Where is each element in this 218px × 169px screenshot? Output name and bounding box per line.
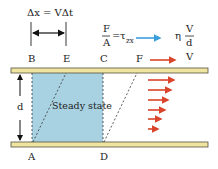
- point-c-label: C: [100, 54, 108, 64]
- point-b-label: B: [28, 54, 35, 64]
- area-label: A: [103, 38, 110, 48]
- gap-denominator: d: [186, 38, 192, 48]
- point-a-label: A: [28, 152, 35, 162]
- steady-state-label: Steady state: [52, 101, 112, 111]
- point-d-label: D: [100, 152, 108, 162]
- gap-d-label: d: [17, 102, 23, 112]
- tau-subscript: zx: [126, 36, 134, 46]
- tau-symbol: τ: [120, 31, 126, 41]
- delta-x-formula: Δx = VΔt: [27, 8, 73, 18]
- point-f-label: F: [136, 54, 143, 64]
- velocity-numerator: V: [186, 24, 193, 34]
- top-plate: [11, 68, 208, 73]
- force-label: F: [103, 24, 110, 34]
- point-e-label: E: [63, 54, 70, 64]
- bottom-plate: [11, 142, 208, 147]
- eta-symbol: η: [175, 31, 181, 41]
- plate-velocity-label: V: [186, 52, 193, 62]
